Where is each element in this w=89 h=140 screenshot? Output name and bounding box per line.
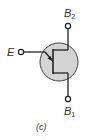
emitter-label: E	[7, 47, 14, 58]
base2-label: B2	[64, 8, 75, 20]
base1-subscript: 1	[71, 111, 75, 118]
figure-caption: (c)	[36, 123, 47, 132]
emitter-label-text: E	[7, 46, 14, 58]
base1-label: B1	[64, 106, 75, 118]
transistor-body	[40, 43, 78, 81]
ujt-symbol	[0, 0, 89, 140]
base2-subscript: 2	[71, 13, 75, 20]
base2-terminal	[65, 23, 70, 28]
base1-terminal	[65, 96, 70, 101]
emitter-terminal	[18, 49, 23, 54]
